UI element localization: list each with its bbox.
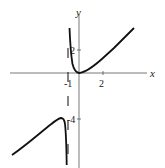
y-axis-label: y <box>75 6 81 18</box>
x-tick-label-2: 2 <box>99 78 104 89</box>
chart-canvas: x y 2 -1 2 -4 <box>0 0 165 168</box>
curve-left-branch <box>12 118 67 165</box>
x-axis-label: x <box>149 67 155 79</box>
